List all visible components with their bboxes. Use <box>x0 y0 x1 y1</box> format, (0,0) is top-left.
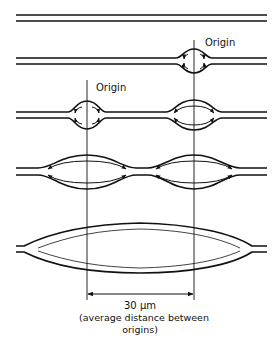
distance-value: 30 μm <box>124 300 156 311</box>
stage-3-dna <box>16 100 267 130</box>
origin-label-left: Origin <box>96 82 126 93</box>
distance-caption-line1: (average distance between <box>79 312 209 323</box>
origin-label-right: Origin <box>205 37 235 48</box>
distance-caption-line2: origins) <box>122 324 158 335</box>
stage-1-dna <box>16 15 267 21</box>
stage-5-dna <box>16 223 267 273</box>
stage-2-dna <box>16 49 267 73</box>
replication-diagram: Origin Origin <box>0 0 279 347</box>
stage-4-dna <box>16 155 267 189</box>
